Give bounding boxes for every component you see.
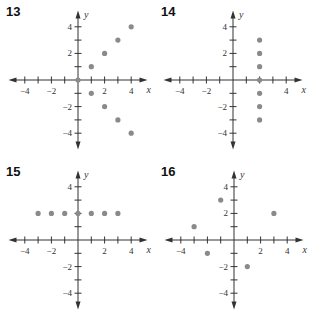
data-point [257,77,262,82]
graph-number: 15 [6,164,20,179]
y-tick-label: 4 [223,22,228,32]
x-tick-label: −4 [176,246,186,256]
data-point [115,117,120,122]
y-axis-label: y [83,169,89,180]
y-axis-down-arrow-icon [76,142,81,150]
y-tick-label: 4 [68,182,73,192]
data-point [115,211,120,216]
x-axis-right-arrow-icon [140,238,148,243]
data-point [129,131,134,136]
x-axis-right-arrow-icon [140,78,148,83]
data-point [257,38,262,43]
data-point [218,198,223,203]
x-axis-left-arrow-icon [9,78,17,83]
x-axis-label: x [301,84,307,95]
x-tick-label: 2 [102,86,107,96]
data-point [115,38,120,43]
y-axis-label: y [238,9,244,20]
x-axis-left-arrow-icon [165,238,173,243]
x-tick-label: 2 [102,246,107,256]
data-point [129,24,134,29]
y-tick-label: 2 [68,48,73,58]
graph-number: 16 [161,164,175,179]
y-tick-label: −2 [218,262,228,272]
data-point [102,51,107,56]
x-tick-label: 4 [129,246,134,256]
data-point [102,211,107,216]
y-tick-label: −2 [62,102,72,112]
x-axis-left-arrow-icon [164,78,172,83]
data-point [89,64,94,69]
y-tick-label: −4 [62,288,72,298]
graph-number: 13 [6,4,20,19]
x-tick-label: 4 [129,86,134,96]
data-point [205,251,210,256]
data-point [75,77,80,82]
y-axis-up-arrow-icon [76,171,81,179]
graph-16: −42442−2−4xy 16 [155,160,310,319]
data-point [49,211,54,216]
data-point [257,64,262,69]
y-axis-down-arrow-icon [76,302,81,310]
y-tick-label: −2 [62,262,72,272]
x-tick-label: −2 [47,246,57,256]
graph-15: −4−2244−2−4xy 15 [0,160,155,319]
x-tick-label: −4 [175,86,185,96]
y-axis-up-arrow-icon [232,171,237,179]
data-point [75,211,80,216]
y-tick-label: −4 [218,288,228,298]
x-tick-label: 4 [285,246,290,256]
data-point [257,91,262,96]
y-axis-label: y [239,169,245,180]
data-point [62,211,67,216]
x-tick-label: −2 [202,86,212,96]
data-point [257,104,262,109]
data-point [89,91,94,96]
y-axis-up-arrow-icon [231,11,236,19]
y-tick-label: −4 [217,128,227,138]
y-axis-down-arrow-icon [232,302,237,310]
graph-13: −4−22442−2−4xy 13 [0,0,155,160]
y-axis-label: y [83,9,89,20]
x-axis-right-arrow-icon [296,238,304,243]
data-point [271,211,276,216]
x-axis-label: x [146,84,152,95]
data-point [192,224,197,229]
y-tick-label: 4 [68,22,73,32]
x-tick-label: 2 [258,246,263,256]
data-point [36,211,41,216]
data-point [89,211,94,216]
x-tick-label: −2 [47,86,57,96]
y-tick-label: 4 [224,182,229,192]
graph-14: −4−2442−2−4xy 14 [155,0,310,160]
x-tick-label: 4 [284,86,289,96]
y-axis-down-arrow-icon [231,142,236,150]
data-point [257,117,262,122]
data-point [245,264,250,269]
coordinate-plane: −4−22442−2−4xy [0,0,155,160]
y-tick-label: −2 [217,102,227,112]
coordinate-plane: −42442−2−4xy [155,160,310,319]
coordinate-plane: −4−2442−2−4xy [155,0,310,160]
x-axis-left-arrow-icon [9,238,17,243]
x-tick-label: −4 [20,86,30,96]
y-tick-label: 2 [224,208,229,218]
x-tick-label: −4 [20,246,30,256]
data-point [102,104,107,109]
data-point [257,51,262,56]
x-axis-right-arrow-icon [295,78,303,83]
y-tick-label: 2 [223,48,228,58]
y-tick-label: −4 [62,128,72,138]
graph-number: 14 [161,4,175,19]
y-axis-up-arrow-icon [76,11,81,19]
x-axis-label: x [302,244,308,255]
x-axis-label: x [146,244,152,255]
coordinate-plane: −4−2244−2−4xy [0,160,155,319]
